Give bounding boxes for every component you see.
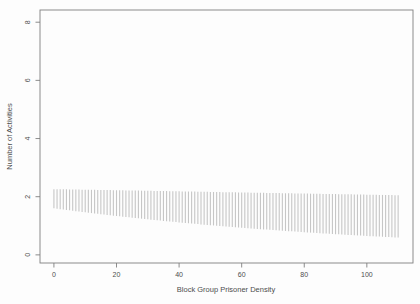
x-tick-label: 40 [175, 271, 183, 278]
x-tick-label: 100 [361, 271, 373, 278]
y-tick-label: 4 [24, 136, 31, 140]
x-tick-label: 20 [113, 271, 121, 278]
x-tick-label: 80 [300, 271, 308, 278]
x-tick-label: 60 [238, 271, 246, 278]
y-axis-title: Number of Activities [5, 103, 14, 170]
x-tick-label: 0 [52, 271, 56, 278]
y-tick-label: 8 [24, 20, 31, 24]
interval-bars-group [54, 189, 398, 237]
y-tick-label: 2 [24, 195, 31, 199]
y-tick-label: 6 [24, 78, 31, 82]
r-plot-figure: 020406080100 02468 Block Group Prisoner … [0, 0, 420, 304]
y-axis: 02468 [24, 20, 40, 257]
x-axis-title: Block Group Prisoner Density [177, 285, 276, 294]
y-tick-label: 0 [24, 253, 31, 257]
x-axis: 020406080100 [52, 263, 373, 278]
chart-canvas: 020406080100 02468 Block Group Prisoner … [0, 0, 420, 304]
